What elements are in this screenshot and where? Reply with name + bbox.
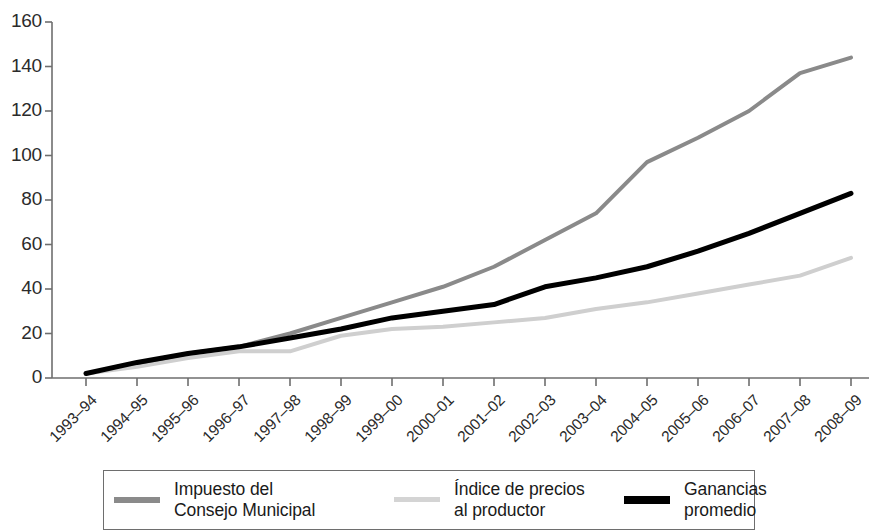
y-axis-tick-label: 40 <box>0 277 42 299</box>
y-axis-tick-label: 120 <box>0 99 42 121</box>
legend-swatch <box>394 497 440 502</box>
y-axis-tick-label: 60 <box>0 233 42 255</box>
y-axis-tick-label: 0 <box>0 366 42 388</box>
legend-swatch <box>624 496 670 504</box>
legend-swatch <box>114 497 160 503</box>
y-axis-tick-label: 140 <box>0 55 42 77</box>
legend-label: Índice de precios al productor <box>454 479 585 520</box>
legend-label: Impuesto del Consejo Municipal <box>174 479 315 520</box>
series-line-2 <box>86 193 851 373</box>
legend-entry: Ganancias promedio <box>624 479 767 520</box>
legend-label: Ganancias promedio <box>684 479 767 520</box>
legend-entry: Impuesto del Consejo Municipal <box>114 479 315 520</box>
y-axis-tick-label: 160 <box>0 10 42 32</box>
y-axis-tick-label: 100 <box>0 144 42 166</box>
chart-legend: Impuesto del Consejo MunicipalÍndice de … <box>103 470 755 530</box>
y-axis-tick-label: 80 <box>0 188 42 210</box>
y-axis-tick-label: 20 <box>0 322 42 344</box>
legend-entry: Índice de precios al productor <box>394 479 585 520</box>
